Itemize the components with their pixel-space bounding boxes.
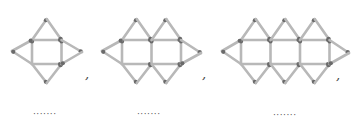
answer-blank-1: ·······	[33, 110, 57, 119]
matchstick-triangle-right	[329, 53, 349, 65]
matchstick-vertical	[327, 39, 331, 64]
matchstick-triangle-top	[300, 18, 316, 40]
matchstick-triangle-right	[330, 40, 350, 54]
matchstick-vertical	[120, 39, 124, 64]
match-head-icon	[180, 61, 184, 65]
matchstick-triangle-bottom	[32, 64, 48, 84]
match-head-icon	[29, 39, 33, 43]
matchstick-triangle-left	[12, 39, 33, 51]
matchstick-pattern-diagram	[0, 0, 362, 119]
matchstick-triangle-bottom	[315, 63, 331, 83]
matchstick-triangle-right	[61, 52, 82, 65]
matchstick-horizontal-top	[300, 38, 330, 42]
matchstick-triangle-bottom	[166, 63, 182, 83]
matchstick-triangle-bottom	[137, 63, 153, 83]
answer-blank-2: ·······	[137, 110, 161, 119]
matchstick-vertical	[239, 39, 243, 64]
matchstick-vertical	[298, 39, 302, 64]
matchstick-horizontal-bottom	[32, 62, 62, 66]
matchstick-vertical	[268, 39, 272, 64]
matchstick-triangle-top	[241, 18, 257, 40]
matchstick-triangle-bottom	[241, 64, 257, 84]
matchstick-triangle-left	[221, 50, 241, 64]
matchstick-triangle-bottom	[47, 63, 63, 83]
matchstick-horizontal-bottom	[300, 62, 330, 66]
separator-comma-2: ,	[202, 66, 206, 81]
match-head-icon	[119, 39, 123, 43]
matchstick-horizontal-top	[241, 38, 271, 42]
matchstick-horizontal-bottom	[241, 62, 271, 66]
match-head-icon	[329, 61, 333, 65]
matchstick-triangle-bottom	[256, 63, 272, 83]
match-head-icon	[61, 61, 65, 65]
match-head-icon	[238, 39, 242, 43]
matchstick-triangle-top	[166, 19, 182, 41]
matchstick-triangle-top	[271, 18, 287, 40]
matchstick-triangle-bottom	[300, 64, 316, 84]
matchstick-triangle-bottom	[271, 64, 287, 84]
matchstick-triangle-top	[285, 19, 301, 41]
matchstick-triangle-left	[222, 39, 242, 51]
matchstick-triangle-right	[62, 40, 83, 53]
matchstick-triangle-right	[180, 53, 201, 65]
matchstick-triangle-bottom	[122, 64, 138, 84]
matchstick-triangle-top	[137, 19, 153, 41]
matchstick-triangle-left	[101, 50, 122, 64]
matchstick-horizontal-top	[271, 38, 301, 42]
separator-comma-3: ,	[336, 67, 340, 82]
matchstick-horizontal-bottom	[122, 62, 152, 66]
match-head-icon	[11, 50, 15, 54]
matchstick-vertical	[30, 39, 34, 64]
matchstick-triangle-top	[32, 18, 48, 40]
match-head-icon	[101, 50, 105, 54]
matchstick-triangle-top	[122, 18, 138, 40]
separator-comma-1: ,	[85, 66, 89, 81]
match-head-icon	[221, 50, 225, 54]
matchstick-triangle-left	[11, 50, 32, 64]
matchstick-triangle-top	[47, 19, 63, 41]
matchstick-horizontal-bottom	[271, 62, 301, 66]
matchstick-vertical	[149, 39, 153, 64]
matchstick-vertical	[179, 39, 183, 64]
matchstick-triangle-top	[152, 18, 168, 40]
matchstick-triangle-bottom	[285, 63, 301, 83]
matchstick-triangle-bottom	[152, 64, 168, 84]
matchstick-horizontal-bottom	[152, 62, 182, 66]
matchstick-triangle-right	[181, 40, 202, 54]
matchstick-horizontal-top	[152, 38, 182, 42]
matchstick-triangle-top	[256, 19, 272, 41]
matchstick-horizontal-top	[32, 38, 62, 42]
matchstick-horizontal-top	[122, 38, 152, 42]
matchstick-triangle-top	[315, 19, 331, 41]
answer-blank-3: ·······	[273, 111, 297, 119]
matchstick-triangle-left	[102, 39, 123, 51]
matchstick-vertical	[59, 39, 63, 64]
